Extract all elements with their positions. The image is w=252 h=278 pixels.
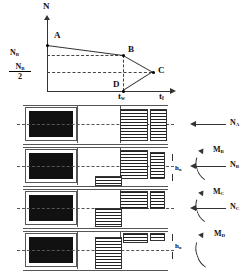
section-panel-d xyxy=(23,231,168,269)
panel-a-stress-block-1 xyxy=(120,109,148,141)
interaction-chart: N A B C D NB NB 2 tw tf xyxy=(0,0,252,100)
y-axis-label: N xyxy=(43,2,50,11)
ytick-nb-half-numerator: NB xyxy=(9,62,31,71)
point-c-label: C xyxy=(158,66,165,75)
force-label-c: NC xyxy=(230,203,239,212)
point-d-label: D xyxy=(113,80,120,89)
panel-a-stress-block-2 xyxy=(150,109,167,141)
ytick-nb-half-denominator: 2 xyxy=(9,71,31,81)
segment-cd xyxy=(122,71,153,91)
panel-c-stress-block-upper xyxy=(120,191,148,209)
dim-tick-b-bottom xyxy=(172,174,173,181)
point-a-marker xyxy=(46,44,49,47)
section-panel-c xyxy=(23,189,168,227)
guide-nb-half xyxy=(47,72,152,73)
panel-d-stress-block-right xyxy=(150,233,165,241)
panel-c-stress-block-right xyxy=(150,191,165,209)
xtick-tw: tw xyxy=(118,92,125,102)
point-b-label: B xyxy=(128,45,134,54)
ytick-nb: NB xyxy=(10,49,19,58)
panel-d-stress-block-upper xyxy=(123,233,148,243)
guide-nb xyxy=(47,55,123,56)
dim-label-d: hn xyxy=(175,243,181,250)
panel-b-stress-block-right xyxy=(150,152,165,179)
force-label-b: NB xyxy=(230,161,239,170)
y-axis-arrow-icon xyxy=(44,15,50,20)
moment-label-c: MC xyxy=(213,188,224,197)
dim-tick-d-bottom xyxy=(172,252,173,259)
panel-d-stress-block-left xyxy=(95,237,122,269)
force-arrow-c-head-icon xyxy=(190,205,196,211)
force-arrow-b-head-icon xyxy=(190,163,196,169)
guide-vertical-bd xyxy=(123,55,124,91)
force-arrow-a xyxy=(196,124,226,125)
panel-b-stress-block-main xyxy=(120,150,148,179)
dim-tick-b-top xyxy=(172,154,173,161)
y-axis xyxy=(47,20,48,92)
point-b-marker xyxy=(122,54,125,57)
section-panel-a xyxy=(23,105,168,143)
x-axis xyxy=(47,91,172,92)
segment-bc xyxy=(123,55,154,73)
moment-label-d: MD xyxy=(214,230,225,239)
panel-b-stress-block-lower xyxy=(95,176,122,186)
dim-tick-d-top xyxy=(172,234,173,241)
force-arrow-c xyxy=(196,208,226,209)
point-c-marker xyxy=(152,71,155,74)
force-arrow-a-head-icon xyxy=(190,121,196,127)
panel-c-stress-block-lower xyxy=(95,208,122,227)
x-axis-arrow-icon xyxy=(170,88,176,94)
point-a-label: A xyxy=(54,31,61,40)
diagram-root: N A B C D NB NB 2 tw tf xyxy=(0,0,252,278)
moment-label-b: MB xyxy=(213,146,224,155)
xtick-tf: tf xyxy=(159,92,164,102)
section-panel-b xyxy=(23,147,168,185)
ytick-nb-half: NB 2 xyxy=(9,62,31,81)
force-label-a: NA xyxy=(230,119,239,128)
dim-label-b: hn xyxy=(175,165,181,172)
force-arrow-b xyxy=(196,166,226,167)
